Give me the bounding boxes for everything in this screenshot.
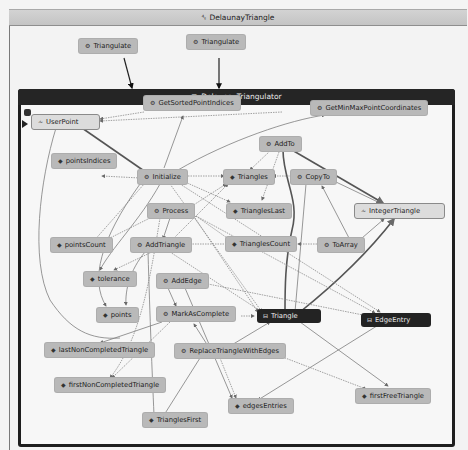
edge-addtriangle-tolerance bbox=[114, 252, 152, 270]
edge-process-trianglescount bbox=[196, 216, 230, 240]
node-label: TrianglesLast bbox=[241, 207, 285, 215]
edge-markascomplete-lastnoncompleted bbox=[100, 322, 162, 343]
node-label: GetMinMaxPointCoordinates bbox=[325, 104, 421, 112]
node-label: Triangle bbox=[271, 312, 298, 320]
struct-icon: ⩪ bbox=[38, 115, 43, 129]
node-label: ToArray bbox=[332, 241, 357, 249]
edge-getminmax-userpoint bbox=[100, 112, 282, 121]
edge-addedge-markascomplete bbox=[168, 288, 176, 306]
node-label: AddTriangle bbox=[145, 241, 185, 249]
node-label: edgesEntries bbox=[243, 402, 287, 410]
node-label: pointsCount bbox=[65, 241, 106, 249]
node-first-free-triangle[interactable]: ◆firstFreeTriangle bbox=[356, 389, 430, 403]
edge-copyto-trianglescount bbox=[295, 184, 306, 312]
node-label: points bbox=[111, 311, 132, 319]
node-label: Triangulate bbox=[93, 42, 131, 50]
node-get-sorted-point-indices[interactable]: ⚙GetSortedPointIndices bbox=[144, 96, 240, 110]
node-triangulate-2[interactable]: ⚙Triangulate bbox=[187, 35, 245, 49]
node-triangulate-1[interactable]: ⚙Triangulate bbox=[79, 39, 137, 53]
edge-replace-markascomplete bbox=[194, 324, 208, 346]
node-triangles-first[interactable]: ◆TrianglesFirst bbox=[143, 413, 207, 427]
node-label: ReplaceTriangleWithEdges bbox=[189, 347, 279, 355]
node-add-to[interactable]: ⚙AddTo bbox=[260, 137, 301, 151]
node-user-point[interactable]: ⩪UserPoint bbox=[31, 114, 100, 130]
node-triangles-count[interactable]: ◆TrianglesCount bbox=[226, 237, 296, 251]
node-add-edge[interactable]: ⚙AddEdge bbox=[157, 274, 208, 288]
node-label: firstNonCompletedTriangle bbox=[69, 381, 160, 389]
node-first-non-completed-triangle[interactable]: ◆firstNonCompletedTriangle bbox=[55, 378, 165, 392]
field-icon: ◆ bbox=[61, 378, 66, 392]
node-edges-entries[interactable]: ◆edgesEntries bbox=[229, 399, 293, 413]
edge-initialize-triangleslast bbox=[185, 182, 230, 202]
edge-process-triangle bbox=[195, 218, 258, 312]
node-label: IntegerTriangle bbox=[369, 207, 420, 215]
field-icon: ◆ bbox=[103, 308, 108, 322]
method-icon: ⚙ bbox=[297, 170, 302, 184]
edge-addedge-edgesentries bbox=[185, 288, 232, 398]
method-icon: ⚙ bbox=[317, 101, 322, 115]
node-label: MarkAsComplete bbox=[171, 310, 229, 318]
node-points-count[interactable]: ◆pointsCount bbox=[51, 238, 112, 252]
struct-icon: ⩪ bbox=[361, 204, 366, 218]
node-label: GetSortedPointIndices bbox=[158, 99, 233, 107]
node-mark-as-complete[interactable]: ⚙MarkAsComplete bbox=[157, 307, 235, 321]
method-icon: ⚙ bbox=[163, 307, 168, 321]
edge-initialize-tolerance bbox=[100, 184, 160, 270]
node-label: UserPoint bbox=[46, 118, 78, 126]
node-label: AddTo bbox=[274, 140, 294, 148]
edge-copyto-integertriangle bbox=[336, 182, 380, 203]
node-get-min-max-point-coordinates[interactable]: ⚙GetMinMaxPointCoordinates bbox=[311, 101, 427, 115]
field-icon: ◆ bbox=[362, 389, 367, 403]
method-icon: ⚙ bbox=[324, 238, 329, 252]
edge-initialize-getminmax bbox=[178, 115, 325, 170]
edge-replace-trianglesfirst bbox=[164, 358, 200, 415]
field-icon: ◆ bbox=[149, 413, 154, 427]
edge-initialize-pointsindices bbox=[102, 176, 140, 178]
field-icon: ◆ bbox=[90, 272, 95, 286]
node-to-array[interactable]: ⚙ToArray bbox=[318, 238, 364, 252]
node-label: pointsIndices bbox=[66, 157, 111, 165]
method-icon: ⚙ bbox=[144, 170, 149, 184]
node-triangles[interactable]: ◆Triangles bbox=[224, 170, 274, 184]
edge-initialize-getsorted bbox=[164, 116, 183, 168]
field-icon: ◆ bbox=[57, 238, 62, 252]
node-label: CopyTo bbox=[305, 173, 329, 181]
node-integer-triangle[interactable]: ⩪IntegerTriangle bbox=[354, 203, 445, 219]
node-label: Process bbox=[162, 207, 188, 215]
class-icon: ⊟ bbox=[263, 309, 268, 323]
node-label: tolerance bbox=[98, 275, 130, 283]
edge-process-addtriangle bbox=[163, 218, 170, 239]
node-points[interactable]: ◆points bbox=[97, 308, 138, 322]
edge-triangle-integertriangle bbox=[300, 219, 394, 312]
node-last-non-completed-triangle[interactable]: ◆lastNonCompletedTriangle bbox=[45, 343, 154, 357]
node-process[interactable]: ⚙Process bbox=[148, 204, 194, 218]
method-icon: ⚙ bbox=[266, 137, 271, 151]
node-copy-to[interactable]: ⚙CopyTo bbox=[291, 170, 336, 184]
node-label: Initialize bbox=[152, 173, 180, 181]
node-triangles-last[interactable]: ◆TrianglesLast bbox=[227, 204, 291, 218]
node-label: Triangulate bbox=[201, 38, 239, 46]
method-icon: ⚙ bbox=[181, 344, 186, 358]
node-label: TrianglesFirst bbox=[157, 416, 202, 424]
node-replace-triangle-with-edges[interactable]: ⚙ReplaceTriangleWithEdges bbox=[175, 344, 285, 358]
edge-addto-triangles bbox=[250, 151, 270, 170]
node-add-triangle[interactable]: ⚙AddTriangle bbox=[131, 238, 191, 252]
field-icon: ◆ bbox=[230, 170, 235, 184]
field-icon: ◆ bbox=[51, 343, 56, 357]
edge-replace-triangle bbox=[230, 322, 270, 346]
method-icon: ⚙ bbox=[150, 96, 155, 110]
node-triangle[interactable]: ⊟Triangle bbox=[257, 309, 321, 323]
node-tolerance[interactable]: ◆tolerance bbox=[84, 272, 136, 286]
edge-replace-edgesentries bbox=[220, 358, 236, 398]
method-icon: ⚙ bbox=[154, 204, 159, 218]
field-icon: ◆ bbox=[58, 154, 63, 168]
node-label: TrianglesCount bbox=[240, 240, 290, 248]
node-edge-entry[interactable]: ⊟EdgeEntry bbox=[361, 313, 431, 327]
method-icon: ⚙ bbox=[163, 274, 168, 288]
node-label: AddEdge bbox=[171, 277, 201, 285]
method-icon: ⚙ bbox=[85, 39, 90, 53]
method-icon: ⚙ bbox=[193, 35, 198, 49]
edge-getsorted-userpoint bbox=[100, 112, 144, 119]
node-points-indices[interactable]: ◆pointsIndices bbox=[52, 154, 116, 168]
node-initialize[interactable]: ⚙Initialize bbox=[138, 170, 187, 184]
